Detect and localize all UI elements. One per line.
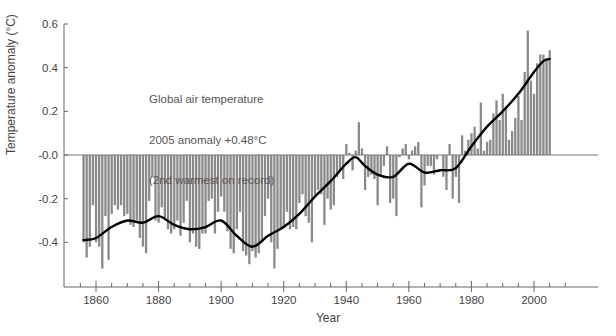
bar-1872 xyxy=(132,155,134,227)
bar-2004 xyxy=(545,59,547,155)
bar-1868 xyxy=(120,155,122,205)
bar-1876 xyxy=(145,155,147,253)
bar-1967 xyxy=(430,155,432,166)
y-tick-label: 0.4 xyxy=(42,62,59,74)
bar-1923 xyxy=(292,155,294,227)
bar-2005 xyxy=(549,50,551,155)
bar-1875 xyxy=(142,155,144,247)
bar-1930 xyxy=(314,155,316,196)
bar-1943 xyxy=(355,151,357,155)
bar-1954 xyxy=(389,155,391,203)
bar-1947 xyxy=(367,155,369,177)
bar-1920 xyxy=(283,155,285,227)
bar-1985 xyxy=(486,142,488,155)
bar-1989 xyxy=(498,120,500,155)
bar-1953 xyxy=(386,146,388,155)
bar-1858 xyxy=(89,155,91,247)
chart-annotation: Global air temperature 2005 anomaly +0.4… xyxy=(149,66,274,201)
bar-1944 xyxy=(358,122,360,155)
bar-1870 xyxy=(126,155,128,214)
bar-1990 xyxy=(502,94,504,155)
bar-1873 xyxy=(136,155,138,221)
bar-1949 xyxy=(373,155,375,179)
x-tick-label: 1900 xyxy=(208,294,234,306)
bar-1918 xyxy=(276,155,278,249)
bar-1986 xyxy=(489,140,491,155)
y-tick-label: -0.2 xyxy=(38,193,58,205)
bar-1864 xyxy=(107,155,109,260)
bar-1931 xyxy=(317,155,319,190)
x-tick-label: 1860 xyxy=(83,294,109,306)
x-tick-label: 1920 xyxy=(271,294,297,306)
x-tick-label: 2000 xyxy=(521,294,547,306)
y-axis: 0.60.40.2-0.0-0.2-0.4 xyxy=(38,18,68,287)
bar-1961 xyxy=(411,151,413,155)
bar-1874 xyxy=(139,155,141,238)
bar-1940 xyxy=(345,144,347,155)
bar-1962 xyxy=(414,146,416,155)
bar-1994 xyxy=(514,118,516,155)
y-tick-label: 0.2 xyxy=(42,105,58,117)
bar-1866 xyxy=(114,155,116,205)
bar-1995 xyxy=(517,96,519,155)
bar-1999 xyxy=(530,81,532,155)
temperature-anomaly-chart: 0.60.40.2-0.0-0.2-0.4 186018801900192019… xyxy=(0,0,616,336)
bar-1951 xyxy=(380,155,382,177)
bar-1926 xyxy=(301,155,303,194)
bar-1933 xyxy=(323,155,325,225)
x-axis-label: Year xyxy=(0,311,616,325)
bar-1859 xyxy=(92,155,94,205)
bar-1861 xyxy=(98,155,100,247)
bar-1863 xyxy=(104,155,106,216)
bar-1977 xyxy=(461,135,463,155)
bar-1945 xyxy=(361,148,363,155)
y-tick-label: -0.4 xyxy=(38,236,58,248)
bar-1996 xyxy=(520,120,522,155)
bar-1964 xyxy=(420,155,422,207)
bar-1966 xyxy=(427,155,429,166)
annotation-line-2: 2005 anomaly +0.48°C xyxy=(149,134,274,148)
bar-1867 xyxy=(117,155,119,210)
x-tick-label: 1940 xyxy=(333,294,359,306)
bar-1958 xyxy=(402,148,404,155)
bar-1969 xyxy=(436,155,438,159)
bar-1993 xyxy=(511,131,513,155)
bar-1928 xyxy=(308,155,310,223)
bar-1857 xyxy=(86,155,88,258)
bar-1956 xyxy=(395,155,397,216)
bar-1952 xyxy=(383,155,385,166)
bar-1919 xyxy=(279,155,281,229)
annotation-line-1: Global air temperature xyxy=(149,93,274,107)
bar-1856 xyxy=(82,155,84,242)
bar-1998 xyxy=(527,31,529,155)
bar-1963 xyxy=(417,142,419,155)
x-axis: 18601880190019201940196019802000 xyxy=(64,281,598,306)
x-tick-label: 1880 xyxy=(146,294,172,306)
bar-1991 xyxy=(505,107,507,155)
bar-1946 xyxy=(364,155,366,190)
bar-1862 xyxy=(101,155,103,269)
bar-1973 xyxy=(448,144,450,155)
bar-1934 xyxy=(326,155,328,199)
bar-1984 xyxy=(483,151,485,155)
x-tick-label: 1960 xyxy=(396,294,422,306)
bar-1983 xyxy=(480,103,482,155)
bar-1972 xyxy=(445,155,447,190)
y-axis-label: Temperature anomaly (°C) xyxy=(4,14,18,155)
bar-1959 xyxy=(405,144,407,155)
bar-1974 xyxy=(452,155,454,199)
bar-1871 xyxy=(129,155,131,225)
bar-1950 xyxy=(376,155,378,205)
bar-1869 xyxy=(123,155,125,216)
bar-1960 xyxy=(408,155,410,159)
y-tick-label: -0.0 xyxy=(38,149,58,161)
bar-1860 xyxy=(95,155,97,242)
bar-1922 xyxy=(289,155,291,229)
bar-2000 xyxy=(533,94,535,155)
bar-1988 xyxy=(495,100,497,155)
bar-1971 xyxy=(442,155,444,177)
bar-1965 xyxy=(423,155,425,186)
bar-1865 xyxy=(111,155,113,214)
bar-1992 xyxy=(508,140,510,155)
bar-2002 xyxy=(539,55,541,155)
